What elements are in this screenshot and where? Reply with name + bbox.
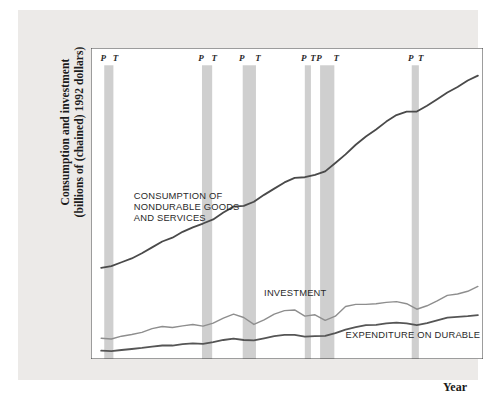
plot-area: PTPTPTPTPTPT0500100015002000250030003500… [91,48,483,359]
recession-trough-label-4: T [310,53,316,63]
investment-label-line1: INVESTMENT [264,287,326,298]
recession-band-6 [412,65,419,359]
recession-trough-label-5: T [334,53,340,63]
y-axis-title-line2: (billions of (chained) 1992 dollars) [72,12,86,252]
consumption-label-line1: CONSUMPTION OF [134,190,223,201]
recession-band-3 [243,65,256,359]
y-axis-title: Consumption and investment (billions of … [58,12,86,252]
recession-trough-label-3: T [255,53,261,63]
recession-band-5 [320,65,334,359]
recession-peak-label-6: P [408,53,414,63]
figure-root: Consumption and investment (billions of … [0,0,496,405]
durables-label-line1: EXPENDITURE ON DURABLE GOODS [346,329,483,340]
recession-peak-label-1: P [100,53,106,63]
chart-svg: PTPTPTPTPTPT0500100015002000250030003500… [91,48,483,359]
recession-trough-label-6: T [418,53,424,63]
recession-band-1 [104,65,113,359]
recession-trough-label-2: T [211,53,217,63]
recession-trough-label-1: T [113,53,119,63]
y-axis-title-line1: Consumption and investment [58,12,72,252]
recession-peak-label-4: P [301,53,307,63]
x-axis-title: Year [443,380,467,395]
consumption-label-line3: AND SERVICES [134,212,206,223]
recession-peak-label-2: P [198,53,204,63]
consumption-label-line2: NONDURABLE GOODS [134,201,240,212]
recession-peak-label-3: P [239,53,245,63]
recession-peak-label-5: P [316,53,322,63]
figure-panel: Consumption and investment (billions of … [18,10,478,380]
